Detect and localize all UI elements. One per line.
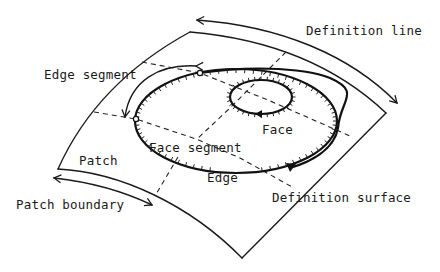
label-edge: Edge xyxy=(207,172,238,185)
vertex-left xyxy=(133,116,138,121)
topology-diagram xyxy=(0,0,440,272)
label-patch: Patch xyxy=(79,155,118,168)
label-definition-line: Definition line xyxy=(306,25,422,38)
vertex-top xyxy=(197,70,202,75)
label-edge-segment: Edge segment xyxy=(44,69,137,82)
label-definition-surface: Definition surface xyxy=(272,192,411,205)
label-face-segment: Face segment xyxy=(149,142,242,155)
inner-face-loop xyxy=(230,80,292,114)
label-patch-boundary: Patch boundary xyxy=(16,199,124,212)
inner-loop-direction-arrow xyxy=(255,110,262,118)
label-face: Face xyxy=(262,124,293,137)
